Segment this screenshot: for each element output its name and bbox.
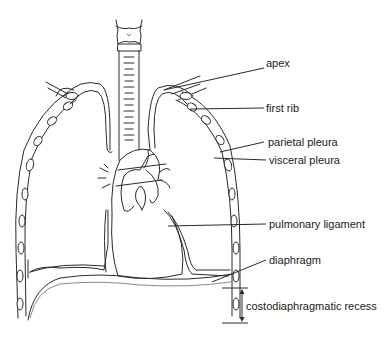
larynx — [116, 20, 142, 51]
label-first-rib: first rib — [266, 102, 299, 114]
label-parietal-pleura: parietal pleura — [268, 136, 338, 148]
diaphragm — [28, 274, 234, 320]
pleura-anatomy-diagram — [0, 0, 389, 340]
label-apex: apex — [266, 57, 290, 69]
left-lung — [28, 83, 112, 279]
label-visceral-pleura: visceral pleura — [269, 154, 340, 166]
label-costodiaphragmatic-recess: costodiaphragmatic recess — [246, 300, 377, 312]
left-chest-wall — [16, 82, 78, 318]
right-chest-wall — [164, 76, 240, 318]
leader-lines — [164, 68, 266, 323]
label-diaphragm: diaphragm — [269, 254, 321, 266]
label-pulmonary-ligament: pulmonary ligament — [269, 218, 365, 230]
trachea — [119, 51, 139, 160]
